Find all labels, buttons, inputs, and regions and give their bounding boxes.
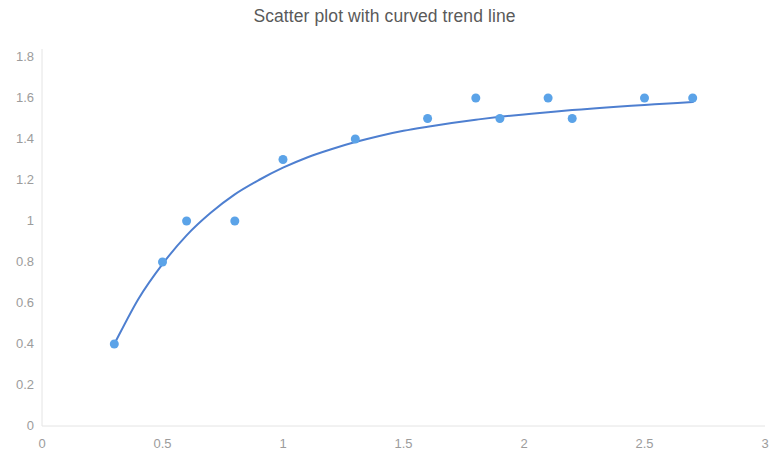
x-axis-tick-label: 3: [745, 436, 769, 451]
data-point-marker: [423, 114, 432, 123]
data-point-marker: [495, 114, 504, 123]
plot-area: [0, 0, 769, 455]
y-axis-tick-label: 0.8: [4, 254, 34, 269]
y-axis-tick-label: 1: [4, 213, 34, 228]
data-point-marker: [568, 114, 577, 123]
x-axis-tick-label: 0.5: [143, 436, 183, 451]
x-axis-tick-label: 0: [22, 436, 62, 451]
axis-lines: [42, 49, 765, 426]
data-point-marker: [182, 217, 191, 226]
y-axis-tick-label: 0.6: [4, 295, 34, 310]
data-point-marker: [158, 258, 167, 267]
x-axis-tick-label: 2: [504, 436, 544, 451]
y-axis-tick-label: 0: [4, 418, 34, 433]
data-point-marker: [230, 217, 239, 226]
x-axis-tick-label: 1.5: [384, 436, 424, 451]
data-point-marker: [351, 135, 360, 144]
data-point-marker: [544, 94, 553, 103]
trend-line-path: [114, 102, 692, 344]
data-point-marker: [640, 94, 649, 103]
y-axis-tick-label: 0.4: [4, 336, 34, 351]
scatter-chart: Scatter plot with curved trend line 00.2…: [0, 0, 769, 455]
y-axis-tick-label: 1.6: [4, 90, 34, 105]
x-axis-tick-label: 2.5: [625, 436, 665, 451]
x-axis-tick-label: 1: [263, 436, 303, 451]
y-axis-tick-label: 1.8: [4, 49, 34, 64]
data-point-marker: [471, 94, 480, 103]
trend-line-series: [114, 102, 692, 344]
data-point-marker: [279, 155, 288, 164]
y-axis-tick-label: 1.4: [4, 131, 34, 146]
data-point-marker: [688, 94, 697, 103]
data-point-marker: [110, 340, 119, 349]
y-axis-tick-label: 0.2: [4, 377, 34, 392]
y-axis-tick-label: 1.2: [4, 172, 34, 187]
